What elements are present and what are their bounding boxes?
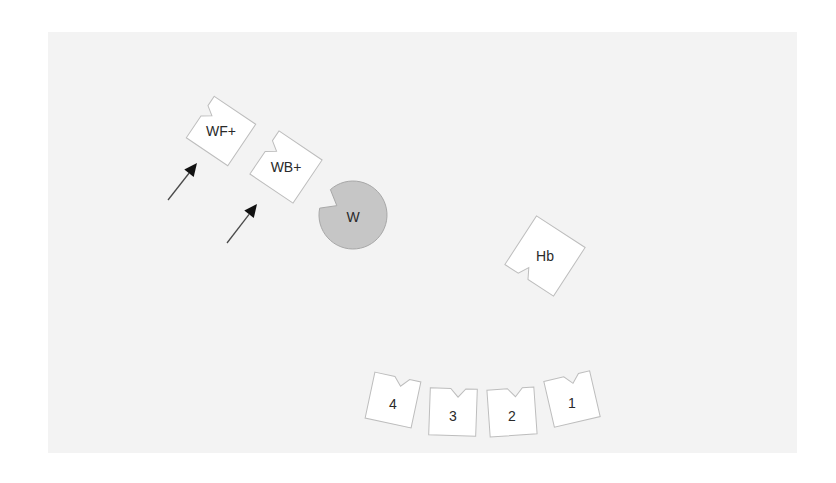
tile-hb[interactable]: Hb <box>505 216 585 296</box>
tile-1[interactable]: 1 <box>544 371 600 427</box>
tile-3[interactable]: 3 <box>429 388 478 437</box>
arrow-to-wb-plus <box>227 204 257 243</box>
arrowhead-icon <box>184 163 197 177</box>
tile-2[interactable]: 2 <box>487 387 537 437</box>
diagram-canvas: WF+ WB+ Hb 4 3 2 1 W <box>0 0 836 483</box>
tile-label-wb-plus: WB+ <box>271 159 302 175</box>
arrowhead-icon <box>244 204 257 218</box>
arrow-shaft <box>227 214 249 243</box>
tile-label-1: 1 <box>568 395 576 411</box>
diagram-stage: WF+ WB+ Hb 4 3 2 1 W <box>0 0 836 483</box>
tile-wf-plus[interactable]: WF+ <box>186 96 255 165</box>
tile-label-wf-plus: WF+ <box>206 123 236 139</box>
arrow-shaft <box>168 173 189 200</box>
tile-wb-plus[interactable]: WB+ <box>250 131 322 203</box>
disc-label-w: W <box>346 209 360 225</box>
disc-w[interactable]: W <box>319 181 387 249</box>
tile-label-4: 4 <box>389 396 397 412</box>
tile-label-3: 3 <box>449 408 457 424</box>
tile-label-2: 2 <box>508 408 516 424</box>
tile-4[interactable]: 4 <box>365 372 421 428</box>
tile-label-hb: Hb <box>536 248 554 264</box>
arrow-to-wf-plus <box>168 163 197 200</box>
